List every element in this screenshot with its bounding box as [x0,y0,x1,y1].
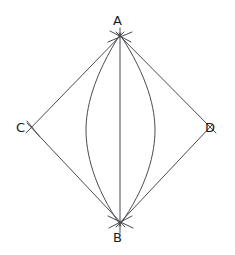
figure-strokes [26,28,216,233]
vertex-label-c: C [16,121,25,134]
segment-A-D [116,32,216,133]
segment-D-B [116,125,212,227]
segment-A-C [26,32,124,133]
arc-left [86,33,121,226]
vertex-label-d: D [205,121,215,134]
intersection-mark-C [27,121,40,137]
construction-drawing [0,0,235,255]
geometry-figure: A B C D [0,0,235,255]
vertex-label-b: B [113,231,122,244]
vertex-label-a: A [113,14,122,27]
segment-C-B [27,123,125,227]
arc-right [119,33,155,226]
